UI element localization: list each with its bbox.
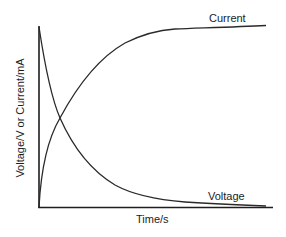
voltage-curve <box>39 27 266 206</box>
chart: Current Voltage Time/s Voltage/V or Curr… <box>0 0 286 237</box>
x-axis-label: Time/s <box>136 214 169 225</box>
series-label-current: Current <box>209 13 246 24</box>
series-label-voltage: Voltage <box>208 191 245 202</box>
current-curve <box>39 26 266 208</box>
y-axis-label: Voltage/V or Current/mA <box>15 58 26 177</box>
